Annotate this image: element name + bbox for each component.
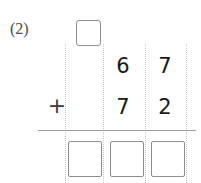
plus-operator-icon: + (45, 94, 69, 118)
carry-box[interactable] (76, 20, 101, 46)
worksheet-problem: (2) 6 7 + 7 2 (0, 0, 201, 183)
answer-box-hundreds[interactable] (68, 141, 102, 177)
addend2-digit-tens: 7 (108, 95, 138, 119)
addend1-digit-tens: 6 (108, 54, 138, 78)
column-guide-right-edge (186, 44, 187, 183)
addend2-digit-ones: 2 (150, 95, 180, 119)
answer-box-ones[interactable] (151, 141, 185, 177)
problem-label: (2) (10, 19, 29, 39)
column-guide-tens-ones (145, 44, 146, 183)
sum-rule-divider (38, 130, 196, 131)
column-guide-hundreds-tens (103, 44, 104, 183)
addend1-digit-ones: 7 (150, 54, 180, 78)
answer-box-tens[interactable] (110, 141, 144, 177)
